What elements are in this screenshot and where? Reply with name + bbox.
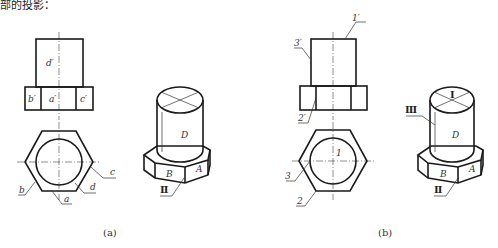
label-2-prime: 2′ [297, 113, 306, 123]
label-d-prime: d′ [46, 58, 54, 68]
label-d: d [90, 182, 96, 192]
face-D-b: D [451, 130, 459, 140]
figure-b-front-view: 1′ 3′ 2′ [294, 13, 367, 123]
label-3-prime: 3′ [294, 38, 302, 48]
label-1: 1 [336, 148, 342, 158]
label-1-prime: 1′ [352, 13, 360, 23]
figure-a-front-view: d′ b′ a′ c′ [25, 32, 93, 120]
label-3: 3 [285, 171, 291, 181]
figure-b-isometric: Ⅰ Ⅲ D B A Ⅱ [405, 87, 483, 196]
face-A-a: A [195, 164, 203, 174]
face-B-b: B [439, 169, 447, 179]
face-D-a: D [180, 130, 188, 140]
face-B-a: B [165, 169, 173, 179]
label-b: b [19, 185, 25, 195]
label-c: c [110, 167, 115, 177]
label-c-prime: c′ [80, 94, 87, 104]
label-2: 2 [296, 196, 303, 206]
label-a-prime: a′ [49, 94, 56, 104]
mark-I: Ⅰ [450, 89, 455, 100]
figure-a-top-view: b a d c [17, 122, 116, 204]
figure-b-top-view: 1 3 2 [285, 122, 374, 206]
face-A-b: A [468, 164, 476, 174]
mark-III: Ⅲ [405, 104, 417, 115]
caption-a: (a) [103, 227, 117, 238]
drawing-canvas: 部的投影： d′ b′ a′ c′ b a d c [0, 0, 498, 248]
label-b-prime: b′ [28, 94, 36, 104]
figure-a-isometric: D B A Ⅱ [144, 87, 210, 196]
edge-II-a: Ⅱ [160, 184, 168, 195]
edge-II-b: Ⅱ [434, 184, 442, 195]
technical-drawing: d′ b′ a′ c′ b a d c [0, 0, 498, 248]
caption-b: (b) [378, 227, 392, 238]
label-a: a [64, 194, 69, 204]
